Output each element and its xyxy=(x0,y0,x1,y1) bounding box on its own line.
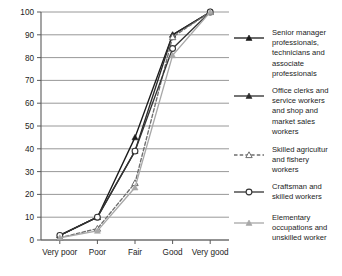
legend-label-line: workers xyxy=(271,127,299,136)
legend-label-line: Office clerks and xyxy=(272,86,328,95)
y-tick-label: 10 xyxy=(25,213,35,222)
legend-label-line: Craftsman and xyxy=(272,182,322,191)
data-point-marker xyxy=(132,148,138,154)
data-point-marker xyxy=(170,46,176,52)
x-tick-label: Good xyxy=(163,248,183,257)
legend-label-line: professionals, xyxy=(272,38,319,47)
data-point-marker xyxy=(95,214,101,220)
legend-label-line: workers xyxy=(271,165,299,174)
y-tick-label: 90 xyxy=(25,31,35,40)
y-tick-label: 30 xyxy=(25,168,35,177)
y-tick-label: 60 xyxy=(25,99,35,108)
legend-label-line: service workers xyxy=(272,96,325,105)
data-point-marker xyxy=(246,189,252,195)
y-tick-label: 50 xyxy=(25,122,35,131)
legend-label-line: market sales xyxy=(272,117,315,126)
legend-label-line: and shop and xyxy=(272,106,318,115)
legend-label-line: unskilled worker xyxy=(272,233,327,242)
x-tick-label: Very poor xyxy=(42,248,77,257)
x-tick-label: Fair xyxy=(128,248,142,257)
legend-label-line: associate xyxy=(272,59,304,68)
legend-label-line: professionals xyxy=(272,69,317,78)
y-tick-label: 0 xyxy=(29,236,34,245)
legend-label-line: occupations and xyxy=(272,223,327,232)
y-tick-label: 70 xyxy=(25,76,35,85)
y-tick-label: 20 xyxy=(25,190,35,199)
legend-label-line: technicians and xyxy=(272,48,325,57)
legend-label-line: skilled workers xyxy=(272,192,322,201)
line-chart-figure: 0102030405060708090100 Very poorPoorFair… xyxy=(0,0,342,276)
legend-label-line: Skilled agricultur xyxy=(272,145,328,154)
chart-svg: 0102030405060708090100 Very poorPoorFair… xyxy=(0,0,342,276)
x-axis-tick-labels: Very poorPoorFairGoodVery good xyxy=(42,248,229,257)
y-tick-label: 40 xyxy=(25,145,35,154)
legend-label-line: Senior manager xyxy=(272,28,327,37)
legend-label-line: and fishery xyxy=(272,155,309,164)
legend-label-line: Elementary xyxy=(272,213,311,222)
y-tick-label: 100 xyxy=(20,8,34,17)
x-tick-label: Very good xyxy=(192,248,229,257)
x-tick-label: Poor xyxy=(89,248,107,257)
y-tick-label: 80 xyxy=(25,54,35,63)
